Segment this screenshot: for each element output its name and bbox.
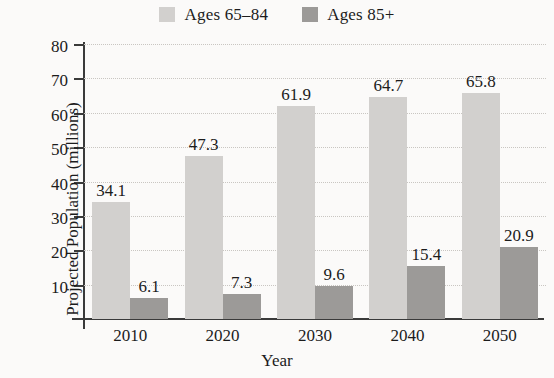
- x-axis-tick-label: 2010: [113, 327, 147, 344]
- y-axis-tick: 80: [74, 44, 84, 46]
- bar: 20.9: [500, 247, 538, 319]
- bar-value-label: 65.8: [466, 73, 496, 90]
- plot-area: 1020304050607080 34.16.147.37.361.99.664…: [84, 44, 546, 319]
- bar: 61.9: [277, 106, 315, 319]
- x-axis-tick-label: 2030: [298, 327, 332, 344]
- legend-label-ages-65-84: Ages 65–84: [184, 6, 268, 23]
- bar-value-label: 61.9: [281, 86, 311, 103]
- legend-item-ages-65-84: Ages 65–84: [159, 6, 268, 23]
- x-axis-tick-label: 2050: [483, 327, 517, 344]
- legend-item-ages-85-plus: Ages 85+: [302, 6, 394, 23]
- bar-value-label: 7.3: [231, 274, 252, 291]
- y-axis-title: Projected Population (millions): [64, 102, 81, 315]
- bar: 9.6: [315, 286, 353, 319]
- y-axis-tick-label: 70: [51, 72, 68, 89]
- bar-chart: Ages 65–84 Ages 85+ 1020304050607080 34.…: [0, 0, 554, 378]
- bar: 7.3: [223, 294, 261, 319]
- legend-swatch-ages-85-plus: [302, 7, 318, 22]
- chart-legend: Ages 65–84 Ages 85+: [0, 6, 554, 23]
- bar-value-label: 34.1: [96, 182, 126, 199]
- legend-label-ages-85-plus: Ages 85+: [327, 6, 394, 23]
- y-axis-tick-label: 80: [51, 38, 68, 55]
- bar-value-label: 15.4: [412, 246, 442, 263]
- y-axis-tick: 70: [74, 78, 84, 80]
- x-axis-tick-label: 2040: [390, 327, 424, 344]
- gridline: [84, 44, 546, 45]
- bar-value-label: 20.9: [504, 227, 534, 244]
- bar-value-label: 6.1: [139, 278, 160, 295]
- bar-value-label: 47.3: [189, 136, 219, 153]
- x-axis-title: Year: [0, 352, 554, 369]
- bar: 65.8: [462, 93, 500, 319]
- bar-value-label: 64.7: [374, 77, 404, 94]
- bar: 34.1: [92, 202, 130, 319]
- bar: 47.3: [185, 156, 223, 319]
- bar: 6.1: [130, 298, 168, 319]
- bar: 64.7: [369, 97, 407, 319]
- bar-value-label: 9.6: [323, 266, 344, 283]
- legend-swatch-ages-65-84: [159, 7, 175, 22]
- x-axis-tick-label: 2020: [206, 327, 240, 344]
- bar: 15.4: [407, 266, 445, 319]
